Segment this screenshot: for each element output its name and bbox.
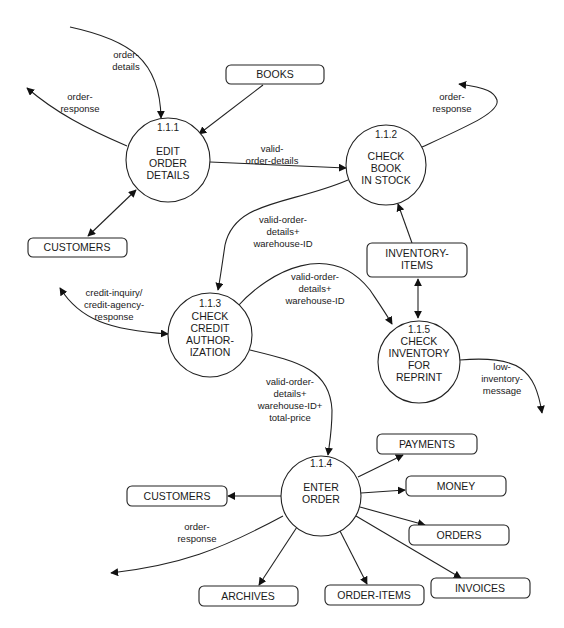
store-customers-bottom[interactable]: CUSTOMERS bbox=[127, 486, 227, 506]
process-1-1-1[interactable]: 1.1.1 EDIT ORDER DETAILS bbox=[126, 118, 210, 202]
store-label: BOOKS bbox=[256, 68, 293, 80]
process-label: ORDER bbox=[302, 493, 340, 505]
process-id: 1.1.4 bbox=[310, 458, 333, 469]
process-id: 1.1.3 bbox=[199, 298, 222, 309]
label-order-details-in: order- details bbox=[112, 49, 140, 72]
process-id: 1.1.1 bbox=[157, 122, 180, 133]
svg-text:response: response bbox=[432, 103, 471, 114]
process-label: ENTER bbox=[303, 481, 339, 493]
process-id: 1.1.5 bbox=[408, 324, 431, 335]
label-to-114: valid-order- details+ warehouse-ID+ tota… bbox=[257, 376, 323, 423]
store-archives[interactable]: ARCHIVES bbox=[199, 586, 298, 606]
process-1-1-4[interactable]: 1.1.4 ENTER ORDER bbox=[281, 456, 361, 536]
process-1-1-3[interactable]: 1.1.3 CHECK CREDIT AUTHOR- IZATION bbox=[168, 293, 252, 377]
flow-114-money bbox=[361, 490, 405, 493]
svg-text:details: details bbox=[112, 61, 140, 72]
label-order-response-112: order- response bbox=[432, 91, 471, 114]
store-books[interactable]: BOOKS bbox=[226, 65, 324, 84]
process-label: IN STOCK bbox=[361, 174, 410, 186]
svg-text:response: response bbox=[177, 533, 216, 544]
process-label: IZATION bbox=[190, 346, 231, 358]
flow-customers-111 bbox=[88, 190, 136, 236]
data-flow-diagram: 1.1.1 EDIT ORDER DETAILS 1.1.2 CHECK BOO… bbox=[0, 0, 564, 628]
svg-text:order-: order- bbox=[67, 91, 92, 102]
flow-books-to-111 bbox=[199, 85, 263, 134]
process-label: EDIT bbox=[156, 145, 181, 157]
svg-text:warehouse-ID+: warehouse-ID+ bbox=[257, 400, 323, 411]
store-label: INVOICES bbox=[455, 582, 505, 594]
store-money[interactable]: MONEY bbox=[406, 476, 506, 496]
store-customers-top[interactable]: CUSTOMERS bbox=[28, 238, 127, 257]
label-to-115: valid-order- details+ warehouse-ID bbox=[284, 271, 344, 306]
label-credit: credit-inquiry/ credit-agency- response bbox=[84, 287, 144, 322]
svg-text:credit-inquiry/: credit-inquiry/ bbox=[85, 287, 142, 298]
process-1-1-5[interactable]: 1.1.5 CHECK INVENTORY FOR REPRINT bbox=[378, 321, 460, 403]
flow-inventory-to-112 bbox=[398, 204, 412, 243]
flow-114-order-items bbox=[340, 531, 367, 584]
store-orders[interactable]: ORDERS bbox=[409, 525, 509, 545]
svg-text:warehouse-ID: warehouse-ID bbox=[252, 238, 312, 249]
process-label: ORDER bbox=[149, 157, 187, 169]
process-label: CREDIT bbox=[190, 322, 230, 334]
process-label: INVENTORY bbox=[389, 347, 450, 359]
svg-text:total-price: total-price bbox=[269, 412, 311, 423]
process-label: REPRINT bbox=[396, 371, 443, 383]
process-label: CHECK bbox=[401, 335, 438, 347]
store-label: CUSTOMERS bbox=[144, 490, 211, 502]
svg-text:valid-order-: valid-order- bbox=[291, 271, 339, 282]
svg-text:inventory-: inventory- bbox=[481, 373, 523, 384]
store-invoices[interactable]: INVOICES bbox=[431, 578, 530, 598]
process-1-1-2[interactable]: 1.1.2 CHECK BOOK IN STOCK bbox=[346, 125, 426, 205]
svg-text:details+: details+ bbox=[266, 226, 299, 237]
process-label: DETAILS bbox=[147, 169, 190, 181]
store-payments[interactable]: PAYMENTS bbox=[377, 434, 477, 454]
svg-text:details+: details+ bbox=[298, 283, 331, 294]
store-label: ITEMS bbox=[401, 259, 433, 271]
process-id: 1.1.2 bbox=[375, 129, 398, 140]
store-label: ARCHIVES bbox=[221, 590, 275, 602]
process-label: CHECK bbox=[192, 310, 229, 322]
store-label: CUSTOMERS bbox=[44, 241, 111, 253]
svg-text:credit-agency-: credit-agency- bbox=[84, 299, 144, 310]
store-order-items[interactable]: ORDER-ITEMS bbox=[325, 585, 424, 605]
svg-text:valid-order-: valid-order- bbox=[266, 376, 314, 387]
store-label: MONEY bbox=[437, 480, 476, 492]
svg-text:order-details: order-details bbox=[246, 155, 299, 166]
label-order-response-111: order- response bbox=[60, 91, 99, 114]
label-valid-order-details: valid- order-details bbox=[246, 143, 299, 166]
flow-114-payments bbox=[358, 455, 403, 477]
svg-text:valid-order-: valid-order- bbox=[259, 214, 307, 225]
svg-text:order-: order- bbox=[184, 521, 209, 532]
store-inventory-items[interactable]: INVENTORY- ITEMS bbox=[367, 243, 467, 277]
store-label: ORDERS bbox=[437, 529, 482, 541]
store-label: INVENTORY- bbox=[385, 247, 449, 259]
process-label: CHECK bbox=[368, 150, 405, 162]
svg-text:valid-: valid- bbox=[261, 143, 284, 154]
svg-text:response: response bbox=[60, 103, 99, 114]
label-to-113: valid-order- details+ warehouse-ID bbox=[252, 214, 312, 249]
store-label: ORDER-ITEMS bbox=[337, 589, 411, 601]
store-label: PAYMENTS bbox=[399, 438, 455, 450]
svg-text:message: message bbox=[483, 385, 522, 396]
svg-text:order-: order- bbox=[439, 91, 464, 102]
svg-text:response: response bbox=[94, 311, 133, 322]
flow-114-archives bbox=[259, 527, 297, 585]
svg-text:warehouse-ID: warehouse-ID bbox=[284, 295, 344, 306]
process-label: FOR bbox=[408, 359, 431, 371]
svg-text:details+: details+ bbox=[273, 388, 306, 399]
flow-114-orders bbox=[360, 507, 425, 525]
svg-text:order-: order- bbox=[113, 49, 138, 60]
svg-text:low-: low- bbox=[493, 361, 510, 372]
label-order-response-114: order- response bbox=[177, 521, 216, 544]
process-label: BOOK bbox=[371, 162, 401, 174]
process-label: AUTHOR- bbox=[186, 334, 234, 346]
